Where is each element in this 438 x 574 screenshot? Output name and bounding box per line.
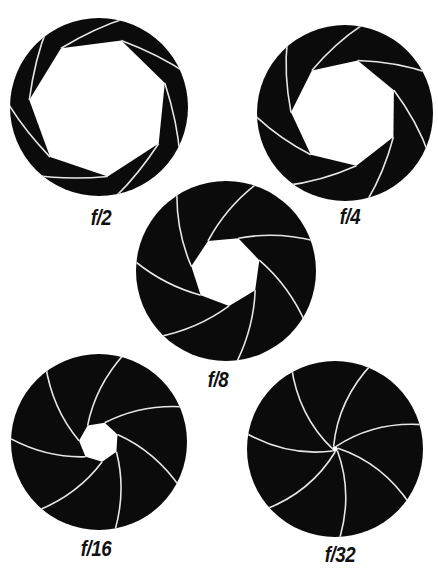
label-f2: f/2 — [91, 207, 112, 229]
aperture-f2 — [5, 17, 189, 201]
label-f4: f/4 — [340, 206, 361, 228]
label-f8: f/8 — [208, 369, 229, 391]
aperture-f32 — [243, 361, 426, 543]
aperture-f8 — [131, 181, 318, 367]
aperture-f16 — [5, 352, 187, 535]
label-f16: f/16 — [81, 538, 112, 560]
aperture-diagram-canvas — [0, 0, 438, 574]
aperture-diagram: f/2 f/4 f/8 f/16 f/32 — [0, 0, 438, 574]
aperture-f4 — [251, 22, 433, 205]
label-f32: f/32 — [325, 544, 356, 566]
